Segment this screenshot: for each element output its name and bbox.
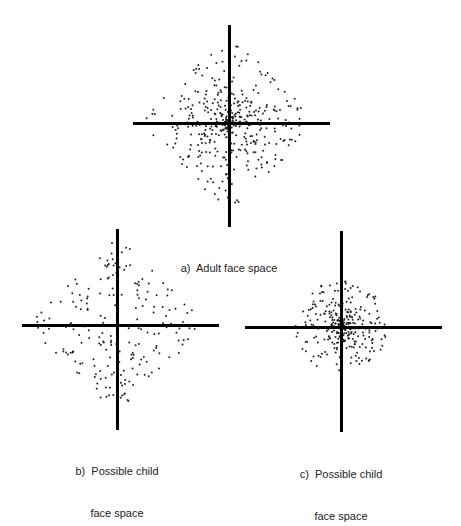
caption-adult-face-space: a) Adult face space: [149, 233, 309, 303]
horizontal-axis-child-c: [245, 326, 442, 329]
vertical-axis-adult: [228, 25, 231, 227]
caption-line: c) Possible child: [261, 467, 421, 481]
horizontal-axis-adult: [133, 122, 330, 125]
horizontal-axis-child-b: [22, 324, 219, 327]
caption-line: face space: [261, 509, 421, 523]
caption-line: b) Possible child: [37, 464, 197, 478]
caption-child-face-space-b: b) Possible child face space: [37, 436, 197, 526]
caption-child-face-space-c: c) Possible child face space: [261, 439, 421, 526]
caption-line: face space: [37, 506, 197, 520]
vertical-axis-child-b: [116, 229, 119, 430]
vertical-axis-child-c: [340, 231, 343, 432]
caption-line: a) Adult face space: [149, 261, 309, 275]
